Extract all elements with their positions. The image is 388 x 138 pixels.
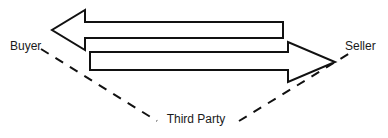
third-party-label: Third Party (167, 112, 226, 126)
third-party-diagram: Buyer Seller Third Party (0, 0, 388, 138)
buyer-to-seller-arrow (90, 42, 335, 82)
buyer-label: Buyer (10, 39, 41, 53)
seller-label: Seller (345, 39, 376, 53)
seller-to-buyer-arrow (52, 10, 283, 50)
diagram-canvas: Buyer Seller Third Party (0, 0, 388, 138)
